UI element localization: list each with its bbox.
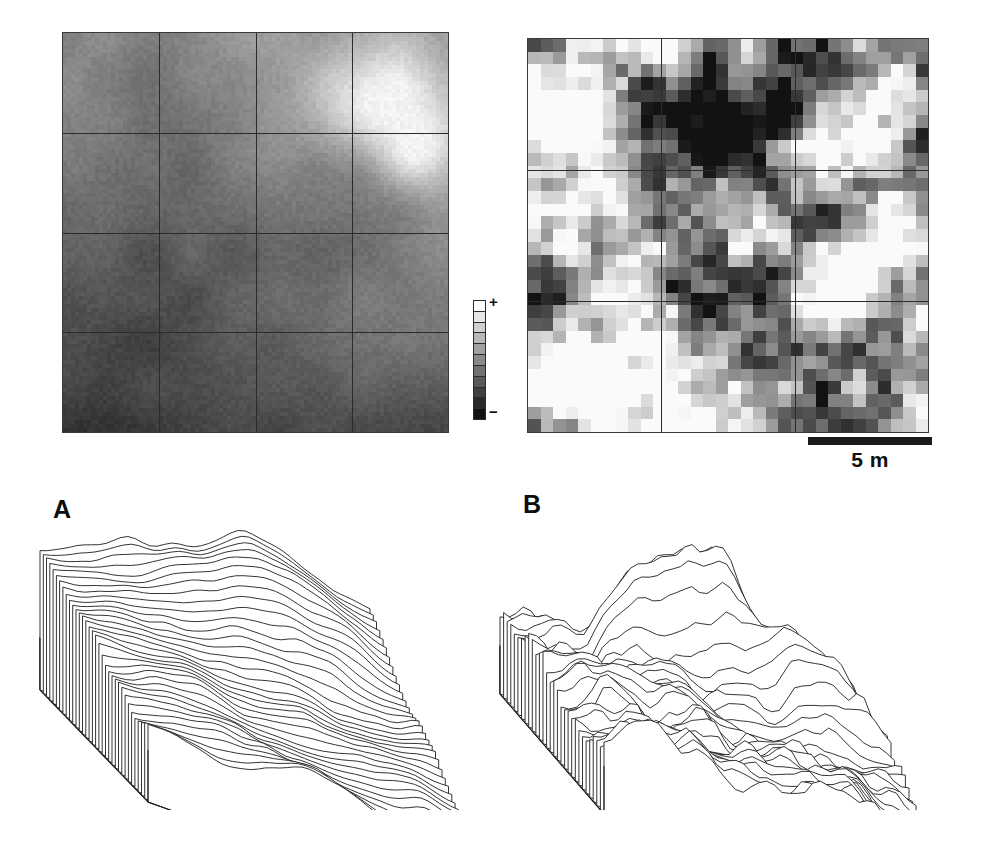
colorbar-segment [474,388,485,399]
trend-surface-map[interactable] [62,32,449,433]
scale-bar-rule [808,437,932,445]
colorbar-segment [474,398,485,409]
surface-plot-residual[interactable] [488,470,968,810]
trend-surface-raster [63,33,448,432]
colorbar-segment [474,301,485,312]
surface-plot-trend[interactable] [18,470,498,810]
colorbar-high-label: + [489,294,498,309]
surface-plot-residual-svg [488,470,968,810]
residual-raster [528,39,928,432]
surface-plot-trend-svg [18,470,498,810]
colorbar-segment [474,333,485,344]
colorbar-segment [474,312,485,323]
colorbar-segment [474,377,485,388]
colorbar-segment [474,355,485,366]
figure-root: + − 5 m A B [0,0,985,866]
colorbar-segment [474,323,485,334]
scale-bar: 5 m [806,437,934,472]
colorbar-low-label: − [489,404,498,419]
grayscale-legend: + − [470,296,516,428]
colorbar-segment [474,344,485,355]
colorbar-strip [473,300,486,420]
colorbar-segment [474,409,485,419]
colorbar-segment [474,366,485,377]
residual-map[interactable] [527,38,929,433]
scale-bar-label: 5 m [806,448,934,472]
